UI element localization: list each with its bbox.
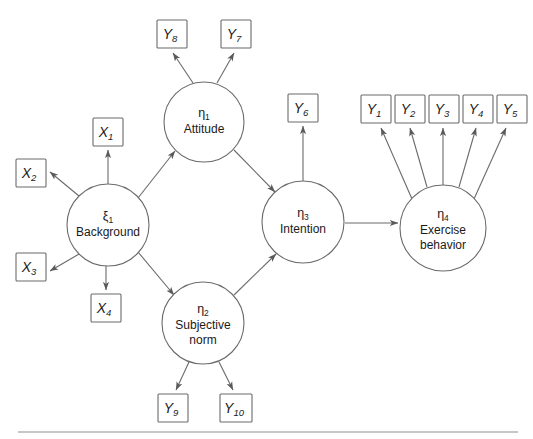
name-xi1: Background: [76, 225, 140, 239]
path-diagram-canvas: X1 X2 X3 X4 Y8 Y7: [0, 0, 533, 439]
name-eta3: Intention: [280, 222, 326, 236]
path-eta2-to-eta3: [234, 254, 276, 295]
path-eta1-to-y8: [173, 53, 193, 83]
observed-node-y3: Y3: [429, 95, 459, 123]
path-xi1-to-x2: [50, 172, 79, 196]
latent-node-eta3: η3 Intention: [262, 181, 344, 263]
latent-variable-nodes: ξ1 Background η1 Attitude η2 Subjective …: [67, 82, 486, 364]
latent-node-eta2: η2 Subjective norm: [162, 282, 244, 364]
name-eta2-line1: Subjective: [175, 318, 231, 332]
name-eta1: Attitude: [184, 122, 225, 136]
path-eta2-to-y9: [176, 362, 189, 390]
observed-node-y2: Y2: [395, 95, 425, 123]
path-eta1-to-eta3: [234, 150, 275, 192]
observed-node-y10: Y10: [220, 394, 252, 422]
observed-node-y5: Y5: [497, 95, 527, 123]
observed-node-x2: X2: [16, 159, 46, 187]
path-eta4-to-y1: [381, 128, 412, 199]
observed-node-y1: Y1: [361, 95, 391, 123]
path-eta2-to-y10: [219, 362, 233, 390]
name-eta4-line2: behavior: [420, 238, 466, 252]
path-eta4-to-y4: [459, 128, 476, 187]
latent-node-xi1: ξ1 Background: [67, 184, 149, 266]
sem-path-diagram: X1 X2 X3 X4 Y8 Y7: [0, 0, 533, 439]
observed-node-x4: X4: [91, 294, 121, 322]
latent-node-eta4: η4 Exercise behavior: [400, 185, 486, 271]
observed-node-y9: Y9: [158, 394, 188, 422]
path-xi1-to-eta2: [138, 252, 174, 295]
path-eta4-to-y5: [474, 128, 506, 199]
path-eta4-to-y2: [410, 128, 427, 187]
observed-node-y6: Y6: [288, 94, 318, 122]
name-eta4-line1: Exercise: [420, 223, 466, 237]
latent-node-eta1: η1 Attitude: [164, 82, 244, 162]
name-eta2-line2: norm: [189, 333, 216, 347]
observed-node-y8: Y8: [157, 20, 187, 48]
observed-node-y4: Y4: [463, 95, 493, 123]
observed-node-x3: X3: [16, 253, 46, 281]
path-xi1-to-x3: [50, 254, 79, 271]
path-eta1-to-y7: [217, 53, 234, 83]
path-xi1-to-eta1: [138, 151, 175, 198]
observed-node-x1: X1: [93, 118, 123, 146]
observed-node-y7: Y7: [221, 20, 251, 48]
